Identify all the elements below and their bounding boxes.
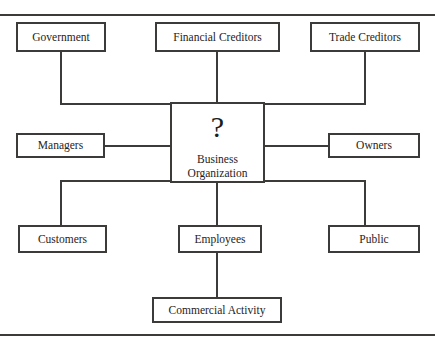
node-government-label: Government [32,30,89,44]
node-government[interactable]: Government [16,22,106,52]
node-employees-label: Employees [194,232,245,246]
node-trade-creditors[interactable]: Trade Creditors [310,22,420,52]
connector-managers-link [104,145,172,147]
question-mark-icon: ? [211,112,224,142]
node-business-organization[interactable]: ? Business Organization [170,102,265,183]
connector-public-bus [264,180,366,182]
bottom-horizontal-rule [0,334,435,336]
node-employees[interactable]: Employees [178,225,262,253]
node-managers-label: Managers [38,138,83,152]
node-financial-creditors-label: Financial Creditors [173,30,261,44]
connector-owners-link [264,145,330,147]
node-public[interactable]: Public [328,225,420,253]
connector-customers-bus [60,180,172,182]
node-managers[interactable]: Managers [16,133,105,158]
connector-trade-creditors-bus [264,103,366,105]
connector-customers-stem [60,180,62,226]
top-horizontal-rule [0,14,435,16]
stakeholder-diagram-figure: Government Financial Creditors Trade Cre… [0,0,435,343]
node-owners-label: Owners [356,138,392,152]
node-business-organization-label-line1: Business [188,152,248,166]
node-owners[interactable]: Owners [328,133,420,158]
connector-government-bus [60,103,171,105]
node-commercial-activity-label: Commercial Activity [169,303,266,317]
connector-government-stem [60,52,62,103]
connector-financial-creditors-stem [216,52,218,103]
node-business-organization-label: Business Organization [188,152,248,181]
figure-caption-clipped [0,0,435,8]
node-financial-creditors[interactable]: Financial Creditors [155,22,280,52]
connector-public-stem [364,180,366,226]
node-commercial-activity[interactable]: Commercial Activity [152,297,282,323]
node-customers[interactable]: Customers [18,225,107,253]
node-trade-creditors-label: Trade Creditors [329,30,401,44]
connector-trade-creditors-stem [364,52,366,103]
node-public-label: Public [359,232,388,246]
node-business-organization-label-line2: Organization [188,166,248,180]
node-customers-label: Customers [38,232,87,246]
connector-commercial-activity-stem [216,253,218,298]
connector-employees-stem [216,183,218,226]
